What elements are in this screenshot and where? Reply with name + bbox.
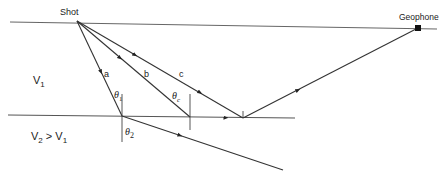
seismic-ray-diagram: Shot Geophone a b c V1 V2 > V1 θ1 θc θ2 [0, 0, 447, 180]
ray-a-incident [77, 21, 122, 116]
shot-label: Shot [60, 7, 79, 17]
ray-b-label: b [144, 69, 149, 79]
ray-c-label: c [179, 69, 184, 79]
ray-a-label: a [104, 69, 109, 79]
layer-interface-line [8, 115, 295, 118]
theta-critical-label: θc [172, 90, 181, 104]
geophone-marker [415, 25, 421, 31]
layer1-velocity-label: V1 [33, 74, 45, 89]
ground-surface-line [10, 22, 437, 29]
ray-c-reflected [243, 28, 418, 118]
theta2-label: θ2 [125, 126, 134, 140]
ray-c-incident [77, 21, 243, 118]
layer2-velocity-label: V2 > V1 [31, 130, 68, 145]
ray-a-refracted [122, 116, 283, 170]
geophone-label: Geophone [399, 12, 439, 22]
ray-b-incident [77, 21, 190, 117]
